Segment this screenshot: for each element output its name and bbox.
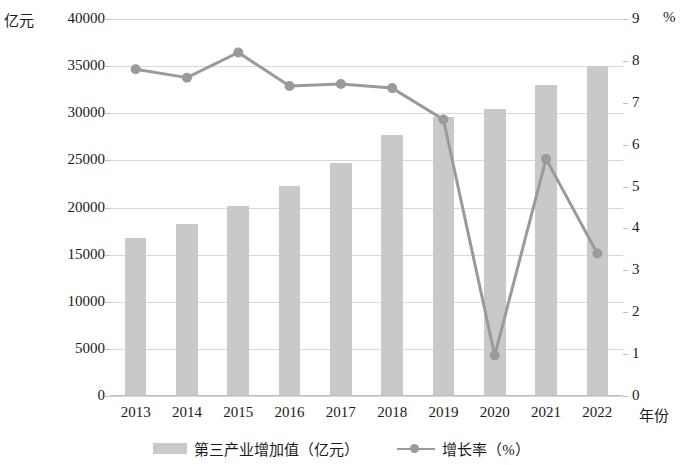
line-marker-2022[interactable] (592, 249, 602, 259)
y-axis-right-tick-label: 4 (632, 220, 640, 235)
line-marker-2016[interactable] (285, 81, 295, 91)
y-axis-right-tickmark (623, 61, 628, 62)
gridline (110, 396, 623, 397)
y-axis-right-tick-label: 2 (632, 304, 640, 319)
x-axis-tick-label-2016: 2016 (264, 404, 316, 421)
y-axis-right-tickmark (623, 312, 628, 313)
x-axis-tick-label-2014: 2014 (161, 404, 213, 421)
y-axis-right-tick-label: 5 (632, 179, 640, 194)
bar-swatch-icon (153, 443, 187, 454)
line-marker-2015[interactable] (233, 48, 243, 58)
y-axis-left-tick-label: 25000 (68, 152, 106, 167)
x-axis-tick-label-2018: 2018 (366, 404, 418, 421)
y-axis-left-tick-label: 0 (98, 388, 106, 403)
y-axis-right-tickmark (623, 103, 628, 104)
y-axis-right-tickmark (623, 354, 628, 355)
y-axis-right-tickmark (623, 19, 628, 20)
y-axis-left-unit-label: 亿元 (4, 9, 34, 30)
line-marker-2014[interactable] (182, 73, 192, 83)
y-axis-left-tick-label: 30000 (68, 105, 106, 120)
y-axis-left-tick-label: 10000 (68, 294, 106, 309)
x-axis-tick-label-2022: 2022 (571, 404, 623, 421)
line-marker-2020[interactable] (490, 350, 500, 360)
x-axis-unit-label: 年份 (639, 404, 669, 425)
legend-label-line: 增长率（%） (442, 438, 530, 459)
growth-rate-line (136, 53, 598, 356)
y-axis-right-tick-label: 9 (632, 11, 640, 26)
x-axis-tick-label-2019: 2019 (417, 404, 469, 421)
line-marker-2017[interactable] (336, 79, 346, 89)
line-marker-2013[interactable] (131, 64, 141, 74)
legend-label-bar: 第三产业增加值（亿元） (194, 438, 359, 459)
y-axis-right-tick-label: 7 (632, 95, 640, 110)
y-axis-right-tickmark (623, 187, 628, 188)
y-axis-right-tickmark (623, 228, 628, 229)
legend-item-bar[interactable]: 第三产业增加值（亿元） (153, 438, 359, 459)
x-axis-tick-label-2017: 2017 (315, 404, 367, 421)
chart-legend: 第三产业增加值（亿元） 增长率（%） (0, 438, 683, 459)
y-axis-left-tick-label: 5000 (75, 341, 105, 356)
y-axis-left-tickmark (105, 396, 110, 397)
line-series (110, 19, 623, 396)
x-axis-tick-label-2015: 2015 (212, 404, 264, 421)
plot-area (110, 19, 623, 396)
y-axis-right-tickmark (623, 145, 628, 146)
y-axis-right-tick-label: 1 (632, 346, 640, 361)
y-axis-left-tick-label: 20000 (68, 200, 106, 215)
y-axis-right-tick-label: 8 (632, 53, 640, 68)
legend-item-line[interactable]: 增长率（%） (397, 438, 530, 459)
line-marker-2018[interactable] (387, 83, 397, 93)
y-axis-right-tickmark (623, 396, 628, 397)
chart-container: 亿元 % 年份 05000100001500020000250003000035… (0, 0, 683, 465)
y-axis-right-tick-label: 6 (632, 137, 640, 152)
y-axis-right-tick-label: 3 (632, 262, 640, 277)
x-axis-tick-label-2021: 2021 (520, 404, 572, 421)
x-axis-line (110, 395, 623, 396)
x-axis-tick-label-2020: 2020 (469, 404, 521, 421)
y-axis-left-tick-label: 40000 (68, 11, 106, 26)
line-marker-2021[interactable] (541, 154, 551, 164)
line-marker-icon (397, 443, 435, 454)
y-axis-right-tick-label: 0 (632, 388, 640, 403)
y-axis-right-tickmark (623, 270, 628, 271)
y-axis-right-unit-label: % (663, 9, 676, 26)
y-axis-left-tick-label: 15000 (68, 247, 106, 262)
y-axis-left-tick-label: 35000 (68, 58, 106, 73)
x-axis-tick-label-2013: 2013 (110, 404, 162, 421)
line-marker-2019[interactable] (438, 115, 448, 125)
